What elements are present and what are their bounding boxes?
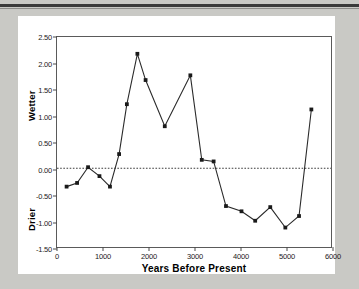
y-tick-label: 1.50 <box>38 86 52 95</box>
y-tick-label: 1.00 <box>38 112 52 121</box>
x-tick-mark <box>241 247 242 251</box>
y-tick-label: -0.50 <box>36 192 52 201</box>
data-point <box>253 219 257 223</box>
x-tick-mark <box>149 247 150 251</box>
data-point <box>135 52 139 56</box>
data-point <box>268 205 272 209</box>
data-point <box>212 160 216 164</box>
x-tick-label: 1000 <box>95 252 111 261</box>
y-tick-mark <box>53 196 57 197</box>
data-point <box>283 226 287 230</box>
data-point <box>108 185 112 189</box>
chart-svg <box>57 37 331 247</box>
data-point <box>144 78 148 82</box>
x-axis-label: Years Before Present <box>56 263 332 274</box>
y-tick-mark <box>53 63 57 64</box>
data-point <box>86 165 90 169</box>
x-tick-label: 4000 <box>233 252 249 261</box>
y-tick-mark <box>53 222 57 223</box>
y-tick-label: 2.50 <box>38 33 52 42</box>
data-point <box>65 185 69 189</box>
data-point <box>117 152 121 156</box>
x-tick-mark <box>287 247 288 251</box>
data-point <box>240 209 244 213</box>
x-tick-mark <box>57 247 58 251</box>
y-tick-label: -1.50 <box>36 245 52 254</box>
figure-root: Wetter Drier 2.502.001.501.000.500.00-0.… <box>0 0 359 289</box>
data-point <box>125 102 129 106</box>
y-tick-mark <box>53 116 57 117</box>
x-tick-mark <box>333 247 334 251</box>
x-tick-mark <box>195 247 196 251</box>
x-tick-label: 5000 <box>279 252 295 261</box>
data-point <box>188 73 192 77</box>
y-tick-label: 0.00 <box>38 165 52 174</box>
data-point <box>163 124 167 128</box>
data-point <box>309 108 313 112</box>
x-tick-mark <box>103 247 104 251</box>
y-tick-mark <box>53 169 57 170</box>
y-tick-mark <box>53 90 57 91</box>
y-tick-label: 2.00 <box>38 59 52 68</box>
data-point <box>297 214 301 218</box>
x-tick-label: 0 <box>55 252 59 261</box>
top-rule <box>0 4 359 7</box>
x-tick-label: 3000 <box>187 252 203 261</box>
data-point <box>224 204 228 208</box>
y-tick-label: 0.50 <box>38 139 52 148</box>
data-point <box>200 158 204 162</box>
y-axis-label-wetter: Wetter <box>26 90 37 121</box>
top-rule-shadow <box>0 8 359 9</box>
y-tick-mark <box>53 143 57 144</box>
data-point <box>75 181 79 185</box>
data-line <box>67 54 312 228</box>
x-tick-label: 6000 <box>325 252 341 261</box>
x-tick-label: 2000 <box>141 252 157 261</box>
plot-area: 2.502.001.501.000.500.00-0.50-1.00-1.50 … <box>56 36 332 248</box>
y-tick-label: -1.00 <box>36 218 52 227</box>
chart-panel: Wetter Drier 2.502.001.501.000.500.00-0.… <box>18 16 335 274</box>
y-tick-mark <box>53 37 57 38</box>
data-point <box>98 174 102 178</box>
